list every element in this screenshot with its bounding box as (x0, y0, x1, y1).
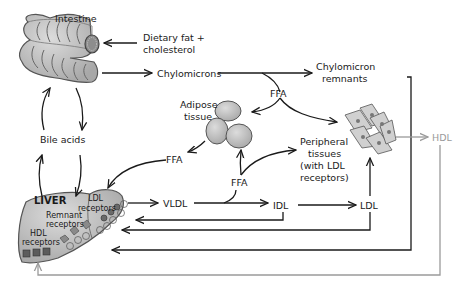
ldl-receptors-label-line2: receptors (78, 204, 116, 213)
hdl-receptors-label-line1: HDL (30, 229, 47, 238)
hdl-receptors-label-line2: receptors (22, 238, 60, 247)
vldl-label: VLDL (163, 198, 188, 209)
ldl-receptors-label-line1: LDL (88, 194, 104, 203)
ffa-left-label: FFA (166, 154, 183, 165)
peripheral-tissues-label-line4: receptors) (300, 172, 349, 183)
remnant-receptors-label-line2: receptors (46, 220, 84, 229)
idl-label: IDL (273, 200, 289, 211)
peripheral-tissues-label-line2: tissues (308, 148, 341, 159)
peripheral-tissue-cells (345, 104, 396, 154)
remnant-receptors-label-line1: Remnant (46, 211, 82, 220)
dietary-label-line1: Dietary fat + (143, 32, 205, 43)
lipoprotein-metabolism-diagram: Intestine Dietary fat + cholesterol Chyl… (0, 0, 467, 299)
intestine-illustration (20, 14, 99, 82)
chylomicron-remnants-label-line1: Chylomicron (316, 61, 375, 72)
ffa-top-label: FFA (270, 88, 287, 99)
ffa-mid-label: FFA (231, 177, 248, 188)
intestine-label: Intestine (55, 13, 97, 24)
peripheral-tissues-label-line3: (with LDL (300, 160, 345, 171)
peripheral-tissues-label-line1: Peripheral (300, 136, 348, 147)
chylomicrons-label: Chylomicrons (157, 68, 221, 79)
ldl-label: LDL (360, 200, 379, 211)
liver-label: LIVER (34, 195, 67, 206)
adipose-label-line1: Adipose (180, 99, 218, 110)
bile-acids-label: Bile acids (40, 134, 85, 145)
hdl-label: HDL (432, 132, 452, 143)
dietary-label-line2: cholesterol (143, 44, 195, 55)
adipose-label-line2: tissue (184, 111, 212, 122)
chylomicron-remnants-label-line2: remnants (322, 73, 367, 84)
